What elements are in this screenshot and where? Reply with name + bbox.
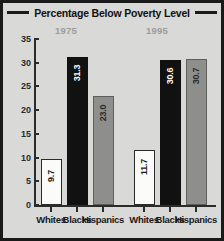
y-tick-mark-10 [34,157,39,159]
y-tick-label-25: 25 [7,81,31,91]
y-tick-label-0: 0 [7,200,31,210]
bar-value-label: 23.0 [98,105,108,122]
y-tick-label-30: 30 [7,58,31,68]
group-label-1975: 1975 [55,25,77,36]
bar-1975-blacks[interactable]: 31.3 [67,57,88,205]
y-tick-mark-20 [34,109,39,111]
plot-area: 1975 1995 35302520151050 9.731.323.011.7… [3,22,221,238]
x-tick-mark [195,207,197,212]
bar-1975-whites[interactable]: 9.7 [41,159,62,205]
y-tick-mark-25 [34,85,39,87]
bar-1995-hispanics[interactable]: 30.7 [186,59,207,205]
y-tick-mark-30 [34,62,39,64]
bar-1995-blacks[interactable]: 30.6 [160,60,181,205]
bar-value-label: 31.3 [72,64,82,81]
category-label-hispanics: Hispanics [82,214,124,225]
x-tick-mark [102,207,104,212]
y-tick-mark-0 [34,204,39,206]
bar-1995-whites[interactable]: 11.7 [134,150,155,205]
chart-title-band: Percentage Below Poverty Level [3,3,221,22]
bar-value-label: 30.7 [191,68,201,85]
page-title: Percentage Below Poverty Level [34,7,190,19]
y-tick-mark-5 [34,180,39,182]
x-tick-mark [143,207,145,212]
bar-value-label: 30.6 [165,68,175,85]
bar-1975-hispanics[interactable]: 23.0 [93,96,114,205]
category-label-whites: Whites [36,214,65,225]
y-tick-mark-15 [34,133,39,135]
category-label-whites: Whites [129,214,158,225]
title-rule-left [7,11,29,14]
y-tick-label-20: 20 [7,105,31,115]
x-axis-line [34,205,216,207]
y-tick-label-15: 15 [7,129,31,139]
bar-value-label: 9.7 [46,170,56,182]
y-tick-label-10: 10 [7,153,31,163]
group-label-1995: 1995 [146,25,168,36]
bar-value-label: 11.7 [139,158,149,174]
y-tick-label-5: 5 [7,176,31,186]
y-tick-label-35: 35 [7,34,31,44]
title-rule-right [195,11,217,14]
category-label-hispanics: Hispanics [175,214,217,225]
poverty-level-bar-chart: Percentage Below Poverty Level 1975 1995… [0,0,224,241]
x-tick-mark [76,207,78,212]
y-tick-mark-35 [34,38,39,40]
x-tick-mark [50,207,52,212]
x-tick-mark [169,207,171,212]
